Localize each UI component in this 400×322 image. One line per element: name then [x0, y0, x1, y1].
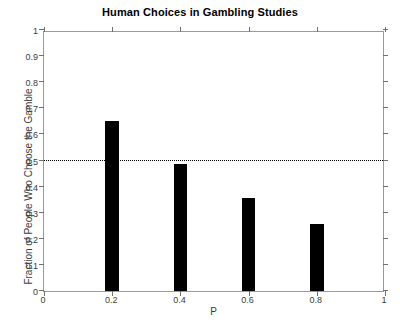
y-axis-tick-right [383, 81, 388, 82]
y-axis-tick [39, 264, 44, 265]
x-axis-tick-label: 0 [23, 295, 63, 305]
figure: Human Choices in Gambling Studies 00.10.… [0, 0, 400, 322]
y-axis-tick-right [383, 238, 388, 239]
y-axis-tick-right [383, 264, 388, 265]
y-axis-title: Fraction of People Who Choose the Gamble [23, 62, 34, 312]
bar [174, 164, 188, 291]
x-axis-tick-label: 0.8 [296, 295, 336, 305]
x-axis-tick-top [44, 27, 45, 32]
y-axis-tick-right [383, 186, 388, 187]
plot-area [43, 31, 384, 292]
x-axis-tick-top [249, 27, 250, 32]
x-axis-tick-label: 0.6 [228, 295, 268, 305]
y-axis-tick [39, 55, 44, 56]
y-axis-tick-right [383, 212, 388, 213]
y-axis-tick-right [383, 107, 388, 108]
chart-title: Human Choices in Gambling Studies [0, 6, 400, 18]
x-axis-tick-label: 0.4 [159, 295, 199, 305]
bar [105, 121, 119, 291]
bar [242, 198, 256, 291]
x-axis-tick-label: 1 [364, 295, 400, 305]
y-axis-title-container: Fraction of People Who Choose the Gamble [12, 31, 26, 292]
x-axis-tick-top [112, 27, 113, 32]
y-axis-tick-right [383, 133, 388, 134]
plot-inner [44, 32, 383, 291]
x-axis-tick-label: 0.2 [91, 295, 131, 305]
x-axis-tick-top [180, 27, 181, 32]
y-axis-tick [39, 160, 44, 161]
y-axis-tick-right [383, 55, 388, 56]
y-axis-tick [39, 212, 44, 213]
y-axis-tick-right [383, 160, 388, 161]
y-axis-tick [39, 238, 44, 239]
x-axis-title: P [43, 306, 384, 317]
reference-line [44, 160, 383, 161]
y-axis-tick [39, 186, 44, 187]
y-axis-tick [39, 133, 44, 134]
x-axis-tick-top [385, 27, 386, 32]
y-axis-tick [39, 107, 44, 108]
x-axis-tick-top [317, 27, 318, 32]
bar [310, 224, 324, 291]
y-axis-tick [39, 81, 44, 82]
